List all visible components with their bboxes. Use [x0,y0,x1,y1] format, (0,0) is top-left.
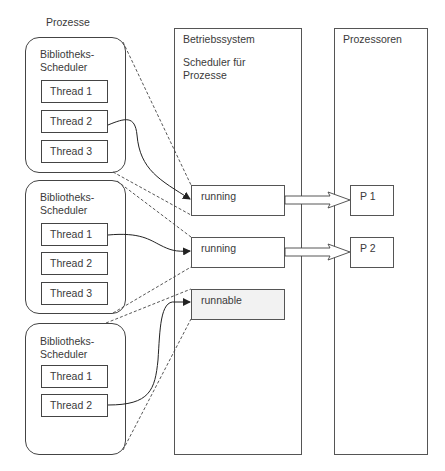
cpu-dispatch-arrows [285,192,350,260]
dashed-mapping-lines [106,42,191,450]
connectors-layer [0,0,445,471]
thread-assignment-arrows [108,120,190,405]
